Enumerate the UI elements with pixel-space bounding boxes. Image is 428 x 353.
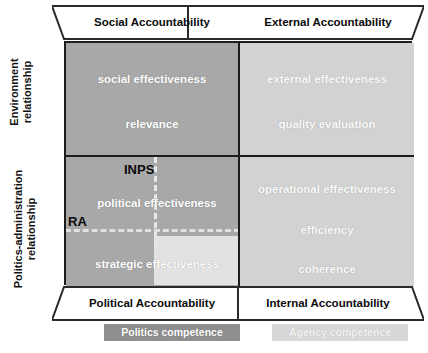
cell-quality-evaluation: quality evaluation	[240, 118, 414, 130]
axis-label-politics-admin-line1: Politics-administration	[12, 154, 25, 304]
top-header-band: Social Accountability External Accountab…	[52, 4, 424, 41]
header-external-accountability: External Accountability	[240, 4, 416, 41]
axis-label-environment-relationship: Environment relationship	[8, 36, 36, 148]
bottom-header-band: Political Accountability Internal Accoun…	[52, 285, 424, 322]
external-accountability-quadrant[interactable]: external effectiveness quality evaluatio…	[240, 43, 414, 157]
axis-label-politics-administration-relationship: Politics-administration relationship	[12, 154, 40, 304]
political-accountability-quadrant[interactable]: INPS RA political effectiveness strategi…	[66, 157, 240, 287]
cell-social-effectiveness: social effectiveness	[66, 73, 238, 85]
cell-political-effectiveness: political effectiveness	[74, 197, 240, 209]
quadrant-matrix: social effectiveness relevance external …	[64, 41, 412, 285]
header-social-accountability: Social Accountability	[64, 4, 240, 41]
cell-external-effectiveness: external effectiveness	[240, 73, 414, 85]
marker-label-ra: RA	[68, 214, 87, 229]
marker-label-inps: INPS	[124, 162, 154, 177]
cell-operational-effectiveness: operational effectiveness	[240, 183, 414, 195]
legend-politics-competence: Politics competence	[104, 324, 240, 341]
cell-efficiency: efficiency	[240, 224, 414, 236]
header-political-accountability: Political Accountability	[64, 285, 240, 322]
horizontal-guide-line	[66, 229, 240, 232]
internal-accountability-quadrant[interactable]: operational effectiveness efficiency coh…	[240, 157, 414, 287]
cell-coherence: coherence	[240, 263, 414, 275]
axis-label-politics-admin-line2: relationship	[25, 154, 38, 304]
header-internal-accountability: Internal Accountability	[240, 285, 416, 322]
legend-agency-competence: Agency competence	[272, 324, 408, 341]
axis-label-environment-line1: Environment	[8, 36, 21, 148]
cell-strategic-effectiveness: strategic effectiveness	[74, 258, 240, 270]
cell-relevance: relevance	[66, 118, 238, 130]
social-accountability-quadrant[interactable]: social effectiveness relevance	[66, 43, 240, 157]
accountability-matrix-figure: Environment relationship Politics-admini…	[0, 0, 428, 353]
axis-label-environment-line2: relationship	[21, 36, 34, 148]
